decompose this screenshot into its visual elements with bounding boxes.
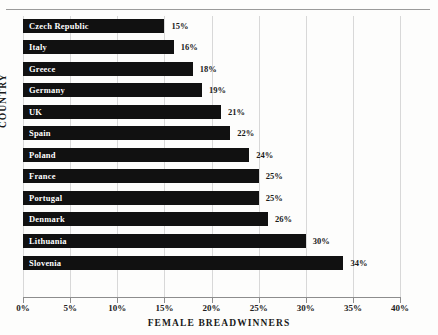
bar-category-label: Lithuania — [29, 234, 67, 248]
bar[interactable] — [23, 256, 343, 270]
bar-category-label: Denmark — [29, 212, 65, 226]
bar-category-label: Portugal — [29, 191, 62, 205]
bar-category-label: Slovenia — [29, 256, 61, 270]
bar-value-label: 15% — [171, 19, 188, 33]
bar-value-label: 19% — [209, 83, 226, 97]
bar[interactable] — [23, 126, 230, 140]
bar-category-label: Greece — [29, 62, 56, 76]
bar-row[interactable]: Denmark26% — [0, 212, 438, 226]
bar-value-label: 18% — [200, 62, 217, 76]
bar-row[interactable]: UK21% — [0, 105, 438, 119]
bar-value-label: 16% — [181, 40, 198, 54]
bar-value-label: 22% — [237, 126, 254, 140]
bar-row[interactable]: Lithuania30% — [0, 234, 438, 248]
bar-value-label: 34% — [350, 256, 367, 270]
bar-row[interactable]: France25% — [0, 169, 438, 183]
x-tick-label-35: 35% — [344, 303, 362, 313]
x-tick-label-15: 15% — [155, 303, 173, 313]
bar-row[interactable]: Poland24% — [0, 148, 438, 162]
x-tick-label-40: 40% — [391, 303, 409, 313]
bar-row[interactable]: Germany19% — [0, 83, 438, 97]
top-divider-rule — [6, 9, 430, 10]
x-axis-title: FEMALE BREADWINNERS — [0, 318, 438, 328]
bar-value-label: 26% — [275, 212, 292, 226]
bar-category-label: Italy — [29, 40, 47, 54]
bar-category-label: France — [29, 169, 56, 183]
bar-row[interactable]: Portugal25% — [0, 191, 438, 205]
bar-value-label: 25% — [266, 191, 283, 205]
bar-category-label: Czech Republic — [29, 19, 89, 33]
bar-value-label: 30% — [313, 234, 330, 248]
bar[interactable] — [23, 169, 259, 183]
bar-category-label: UK — [29, 105, 42, 119]
bar-row[interactable]: Italy16% — [0, 40, 438, 54]
bar-value-label: 24% — [256, 148, 273, 162]
bar-category-label: Germany — [29, 83, 65, 97]
x-tick-label-20: 20% — [203, 303, 221, 313]
bar-category-label: Spain — [29, 126, 51, 140]
bar-row[interactable]: Spain22% — [0, 126, 438, 140]
bar-value-label: 21% — [228, 105, 245, 119]
x-tick-label-5: 5% — [63, 303, 77, 313]
y-axis-title: COUNTRY — [0, 73, 8, 128]
bar[interactable] — [23, 105, 221, 119]
bar-row[interactable]: Czech Republic15% — [0, 19, 438, 33]
bar[interactable] — [23, 148, 249, 162]
x-tick-label-0: 0% — [16, 303, 30, 313]
bar-category-label: Poland — [29, 148, 56, 162]
bar-chart: Czech Republic15%Italy16%Greece18%German… — [0, 0, 438, 335]
x-tick-label-25: 25% — [250, 303, 268, 313]
x-tick-label-10: 10% — [108, 303, 126, 313]
bar-value-label: 25% — [266, 169, 283, 183]
x-tick-label-30: 30% — [297, 303, 315, 313]
bar-row[interactable]: Slovenia34% — [0, 256, 438, 270]
bar-row[interactable]: Greece18% — [0, 62, 438, 76]
